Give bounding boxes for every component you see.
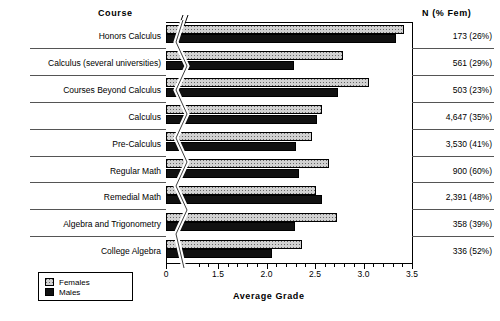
legend-label-males: Males xyxy=(59,288,80,297)
row-separator-right xyxy=(412,209,494,210)
n-percent-female-value: 336 (52%) xyxy=(453,246,492,256)
tick-minor xyxy=(354,264,355,267)
tick-minor xyxy=(228,264,229,267)
row-separator-right xyxy=(412,129,494,130)
row-separator-right xyxy=(412,75,494,76)
x-axis-tick-label: 2.5 xyxy=(309,269,321,279)
x-axis-line xyxy=(166,263,413,264)
row-separator-left xyxy=(30,209,166,210)
bar-females xyxy=(166,78,369,87)
tick-minor xyxy=(393,264,394,267)
tick-minor xyxy=(402,264,403,267)
tick-minor xyxy=(383,264,384,267)
category-label: Calculus (several universities) xyxy=(48,58,161,68)
tick-minor xyxy=(199,264,200,267)
n-percent-female-value: 4,647 (35%) xyxy=(446,112,492,122)
tick-minor xyxy=(296,264,297,267)
row-separator-right xyxy=(412,48,494,49)
x-axis-tick-label: 1.5 xyxy=(212,269,224,279)
n-percent-female-value: 3,530 (41%) xyxy=(446,139,492,149)
x-axis-tick-label: 2.0 xyxy=(261,269,273,279)
category-label: Algebra and Trigonometry xyxy=(63,219,161,229)
n-percent-female-value: 173 (26%) xyxy=(453,31,492,41)
category-label: Honors Calculus xyxy=(99,31,161,41)
plot-top-border xyxy=(166,22,412,23)
bar-males xyxy=(166,34,396,43)
row-separator-right xyxy=(412,156,494,157)
n-percent-female-value: 358 (39%) xyxy=(453,219,492,229)
tick-minor xyxy=(373,264,374,267)
row-separator-right xyxy=(412,236,494,237)
tick-minor xyxy=(334,264,335,267)
legend-swatch-females xyxy=(45,278,54,286)
tick-minor xyxy=(276,264,277,267)
row-separator-left xyxy=(30,75,166,76)
category-label: Calculus xyxy=(128,112,161,122)
bar-females xyxy=(166,25,404,34)
category-label: Remedial Math xyxy=(104,192,161,202)
n-percent-female-value: 503 (23%) xyxy=(453,85,492,95)
n-percent-female-value: 900 (60%) xyxy=(453,166,492,176)
row-separator-left xyxy=(30,129,166,130)
legend-label-females: Females xyxy=(59,278,90,287)
row-separator-left xyxy=(30,182,166,183)
plot-right-border xyxy=(412,22,413,264)
tick-minor xyxy=(305,264,306,267)
legend-swatch-males xyxy=(45,288,54,296)
row-separator-left xyxy=(30,156,166,157)
n-percent-female-value: 2,391 (48%) xyxy=(446,192,492,202)
category-label: Regular Math xyxy=(110,166,161,176)
tick-minor xyxy=(247,264,248,267)
category-label: College Algebra xyxy=(101,246,161,256)
row-separator-left xyxy=(30,236,166,237)
x-axis-title: Average Grade xyxy=(233,292,305,301)
n-column-header: N (% Fem) xyxy=(422,9,471,18)
category-label: Courses Beyond Calculus xyxy=(63,85,161,95)
tick-minor xyxy=(257,264,258,267)
row-separator-right xyxy=(412,102,494,103)
x-axis-tick-label: 3.5 xyxy=(406,269,418,279)
tick-minor xyxy=(237,264,238,267)
axis-break-zigzag-icon xyxy=(170,20,196,268)
tick-minor xyxy=(344,264,345,267)
grade-by-course-chart: Course N (% Fem) Honors Calculus173 (26%… xyxy=(0,0,500,321)
course-column-header: Course xyxy=(98,9,133,18)
row-separator-left xyxy=(30,102,166,103)
tick-minor xyxy=(325,264,326,267)
tick-minor xyxy=(208,264,209,267)
tick-minor xyxy=(286,264,287,267)
legend: Females Males xyxy=(38,272,133,301)
n-percent-female-value: 561 (29%) xyxy=(453,58,492,68)
x-axis-tick-label: 3.0 xyxy=(358,269,370,279)
category-label: Pre-Calculus xyxy=(112,139,161,149)
x-axis-tick-label: 0 xyxy=(164,269,169,279)
row-separator-right xyxy=(412,182,494,183)
row-separator-left xyxy=(30,48,166,49)
